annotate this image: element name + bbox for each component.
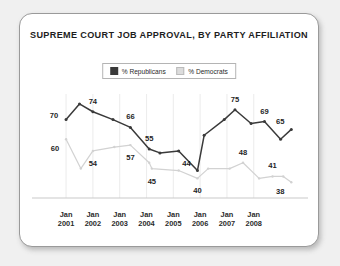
x-axis-tick: Jan2004 [138,210,154,229]
data-point-marker [250,122,253,125]
data-point-marker [223,118,226,121]
series-line-republicans [66,104,291,171]
chart-card: SUPREME COURT JOB APPROVAL, BY PARTY AFF… [19,13,319,247]
x-axis-tick-year: 2005 [165,219,181,228]
data-point-marker [129,126,132,129]
page-title: SUPREME COURT JOB APPROVAL, BY PARTY AFF… [20,30,318,40]
data-point-marker [151,167,153,169]
data-point-marker [158,151,161,154]
x-axis-tick-year: 2006 [192,219,208,228]
data-point-marker [78,102,81,105]
data-point-marker [242,162,244,164]
data-label: 44 [182,158,190,167]
x-axis-tick-month: Jan [138,210,154,219]
data-point-marker [228,167,230,169]
x-axis-tick-month: Jan [111,210,127,219]
data-point-marker [177,169,179,171]
series-line-democrats [66,139,291,182]
legend-item-republicans[interactable]: % Republicans [110,67,165,75]
x-axis-tick: Jan2007 [219,210,235,229]
data-label: 66 [126,112,134,121]
legend-label-republicans: % Republicans [122,68,166,75]
data-point-marker [282,175,284,177]
data-label: 75 [231,94,239,103]
data-label: 41 [268,161,276,170]
data-label: 55 [145,134,153,143]
x-axis-tick-month: Jan [192,210,208,219]
data-point-marker [271,175,273,177]
x-axis-tick-year: 2007 [219,219,235,228]
data-point-marker [92,150,94,152]
legend-item-democrats[interactable]: % Democrats [177,67,228,75]
data-point-marker [207,167,209,169]
data-label: 60 [51,144,59,153]
data-point-marker [196,177,198,179]
x-axis-tick: Jan2006 [192,210,208,229]
chart-canvas [28,92,312,208]
x-axis-tick-month: Jan [246,210,262,219]
x-axis-tick-year: 2002 [85,219,101,228]
data-label: 70 [50,110,58,119]
x-axis-tick: Jan2002 [85,210,101,229]
data-point-marker [258,177,260,179]
x-axis-tick-year: 2004 [138,219,154,228]
data-point-marker [203,134,206,137]
data-point-marker [65,118,68,121]
x-axis-tick-year: 2008 [246,219,262,228]
data-label: 69 [260,106,268,115]
x-axis-tick-year: 2003 [111,219,127,228]
x-axis-tick-month: Jan [219,210,235,219]
x-axis-tick: Jan2001 [58,210,74,229]
x-axis-tick: Jan2005 [165,210,181,229]
data-label: 54 [89,158,97,167]
data-point-marker [148,148,151,151]
data-point-marker [80,167,82,169]
data-point-marker [263,120,266,123]
screenshot-stage: SUPREME COURT JOB APPROVAL, BY PARTY AFF… [0,0,340,266]
data-point-marker [65,138,67,140]
data-point-marker [196,169,199,172]
data-point-marker [279,138,282,141]
x-axis-tick-month: Jan [58,210,74,219]
x-axis-tick-month: Jan [85,210,101,219]
data-point-marker [290,181,292,183]
legend-label-democrats: % Democrats [188,68,228,75]
x-axis-tick-labels: Jan2001Jan2002Jan2003Jan2004Jan2005Jan20… [28,204,312,238]
x-axis-tick: Jan2003 [111,210,127,229]
data-label: 45 [148,176,156,185]
data-label: 48 [239,147,247,156]
republicans-swatch-icon [110,67,118,75]
data-label: 74 [89,96,97,105]
x-axis-tick-month: Jan [165,210,181,219]
data-point-marker [91,110,94,113]
data-point-marker [148,162,150,164]
chart-legend: % Republicans % Democrats [102,63,236,79]
democrats-swatch-icon [177,67,185,75]
data-point-marker [177,149,180,152]
data-label: 57 [126,153,134,162]
data-point-marker [233,108,236,111]
data-point-marker [290,128,293,131]
data-point-marker [129,144,131,146]
data-point-marker [113,146,115,148]
data-label: 40 [193,186,201,195]
data-label: 38 [276,187,284,196]
x-axis-tick-year: 2001 [58,219,74,228]
x-axis-tick: Jan2008 [246,210,262,229]
data-label: 65 [276,117,284,126]
plot-area: Jan2001Jan2002Jan2003Jan2004Jan2005Jan20… [28,92,312,240]
data-point-marker [111,118,114,121]
